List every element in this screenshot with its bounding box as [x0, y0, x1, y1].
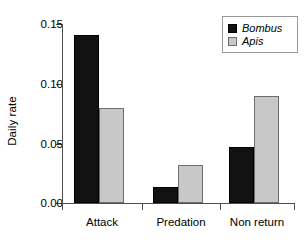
x-tick-mark: [62, 203, 63, 210]
legend-entry-apis: Apis: [228, 35, 292, 47]
y-tick-group: 0.10: [0, 84, 63, 85]
y-tick-group: 0.05: [0, 144, 63, 145]
bar-attack-bombus: [74, 35, 99, 203]
bar-attack-apis: [99, 108, 124, 203]
x-axis-line: [62, 203, 295, 204]
y-tick-label: 0.15: [23, 18, 63, 30]
y-tick-group: 0.15: [0, 24, 63, 25]
bar-predation-apis: [178, 165, 203, 203]
x-category-label-non-return: Non return: [207, 216, 304, 228]
y-tick-label: 0.05: [23, 138, 63, 150]
y-tick-label: 0.00: [23, 197, 63, 209]
legend: Bombus Apis: [222, 16, 298, 53]
light-square-icon: [228, 37, 237, 46]
bar-chart: Daily rate 0.15 0.10 0.05 0.00 Attack Pr…: [0, 0, 304, 242]
y-tick-label: 0.10: [23, 78, 63, 90]
bar-nonreturn-apis: [254, 96, 279, 203]
bar-nonreturn-bombus: [229, 147, 254, 203]
y-axis-label: Daily rate: [2, 0, 22, 242]
x-tick-mark: [220, 203, 221, 210]
dark-square-icon: [228, 24, 237, 33]
legend-entry-bombus: Bombus: [228, 22, 292, 34]
y-axis-line: [62, 24, 63, 204]
x-tick-mark: [142, 203, 143, 210]
bar-predation-bombus: [153, 187, 178, 203]
legend-label: Apis: [242, 36, 263, 47]
x-tick-mark: [294, 203, 295, 210]
y-tick-group: 0.00: [0, 203, 63, 204]
legend-label: Bombus: [242, 23, 282, 34]
